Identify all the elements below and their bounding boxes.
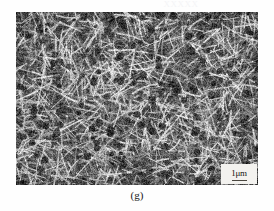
panel-caption: (g) — [0, 189, 274, 201]
figure-root: XXXXX 1μm (g) — [0, 0, 274, 211]
sem-micrograph-panel: 1μm — [16, 12, 258, 185]
scan-bleedthrough-artifact: XXXXX — [146, 0, 216, 10]
scale-bar: 1μm — [221, 164, 257, 184]
sem-micrograph-image — [16, 12, 258, 185]
scale-bar-label: 1μm — [231, 168, 247, 178]
scale-bar-line — [232, 180, 247, 181]
